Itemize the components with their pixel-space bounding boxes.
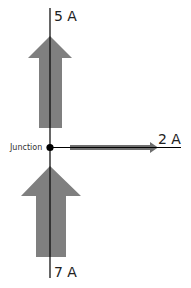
junction-dot bbox=[46, 144, 53, 151]
current-arrow-bottom bbox=[21, 166, 81, 257]
junction-label: Junction bbox=[10, 144, 42, 152]
current-label-bottom: 7 A bbox=[54, 265, 77, 279]
current-label-right: 2 A bbox=[158, 132, 181, 146]
current-label-top: 5 A bbox=[54, 9, 77, 23]
